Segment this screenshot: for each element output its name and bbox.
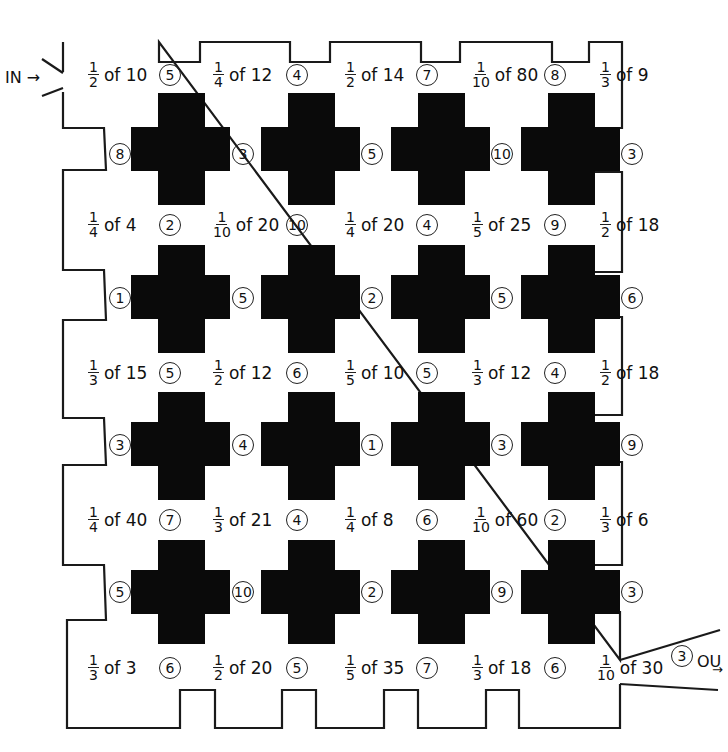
circled-number: 9	[621, 434, 643, 456]
cross-block	[261, 93, 360, 205]
fraction: 12	[213, 654, 224, 682]
fraction: 14	[213, 61, 224, 89]
fraction-label: 12of 20	[213, 648, 272, 688]
fraction-label: 15of 25	[472, 205, 531, 245]
circled-number: 2	[361, 287, 383, 309]
fraction-label: 110of 30	[597, 648, 663, 688]
fraction-label: 12of 10	[88, 55, 147, 95]
fraction-of-text: of 20	[236, 215, 279, 235]
cross-block	[521, 392, 620, 500]
fraction: 110	[472, 506, 490, 534]
fraction-of-text: of 10	[104, 65, 147, 85]
circled-number: 5	[232, 287, 254, 309]
fraction: 13	[88, 654, 99, 682]
fraction-of-text: of 9	[616, 65, 649, 85]
circled-number: 6	[286, 362, 308, 384]
fraction: 15	[345, 654, 356, 682]
fraction-of-text: of 10	[361, 363, 404, 383]
fraction: 12	[600, 211, 611, 239]
fraction-of-text: of 30	[620, 658, 663, 678]
cross-block	[261, 392, 360, 500]
fraction: 110	[472, 61, 490, 89]
cross-block	[131, 392, 230, 500]
circled-number: 5	[361, 143, 383, 165]
fraction-of-text: of 12	[229, 363, 272, 383]
circled-number: 3	[109, 434, 131, 456]
fraction-label: 110of 80	[472, 55, 538, 95]
cross-block	[131, 93, 230, 205]
circled-number: 2	[361, 581, 383, 603]
circled-number: 5	[159, 362, 181, 384]
fraction-of-text: of 40	[104, 510, 147, 530]
circled-number: 10	[286, 214, 308, 236]
fraction-label: 13of 21	[213, 500, 272, 540]
fraction-label: 12of 12	[213, 353, 272, 393]
fraction-label: 12of 14	[345, 55, 404, 95]
fraction-of-text: of 18	[616, 215, 659, 235]
fraction-label: 15of 35	[345, 648, 404, 688]
fraction: 14	[345, 506, 356, 534]
circled-number: 3	[621, 143, 643, 165]
fraction-of-text: of 3	[104, 658, 137, 678]
fraction-label: 14of 8	[345, 500, 394, 540]
cross-block	[261, 540, 360, 644]
circled-number: 5	[109, 581, 131, 603]
circled-number: 3	[232, 143, 254, 165]
circled-number: 4	[416, 214, 438, 236]
fraction: 12	[88, 61, 99, 89]
fraction-of-text: of 6	[616, 510, 649, 530]
circled-number: 3	[671, 645, 693, 667]
circled-number: 9	[491, 581, 513, 603]
fraction: 110	[213, 211, 231, 239]
fraction-of-text: of 60	[495, 510, 538, 530]
fraction-of-text: of 14	[361, 65, 404, 85]
fraction: 14	[345, 211, 356, 239]
fraction-label: 110of 20	[213, 205, 279, 245]
circled-number: 5	[416, 362, 438, 384]
fraction-of-text: of 15	[104, 363, 147, 383]
fraction-of-text: of 20	[361, 215, 404, 235]
fraction-label: 13of 9	[600, 55, 649, 95]
entry-flap-top	[42, 59, 63, 73]
fraction: 13	[213, 506, 224, 534]
circled-number: 3	[621, 581, 643, 603]
fraction-of-text: of 25	[488, 215, 531, 235]
fraction-label: 12of 18	[600, 353, 659, 393]
circled-number: 5	[491, 287, 513, 309]
fraction-of-text: of 4	[104, 215, 137, 235]
fraction: 13	[472, 654, 483, 682]
circled-number: 7	[416, 657, 438, 679]
circled-number: 7	[416, 64, 438, 86]
fraction-of-text: of 20	[229, 658, 272, 678]
circled-number: 4	[544, 362, 566, 384]
circled-number: 4	[232, 434, 254, 456]
fraction-label: 14of 20	[345, 205, 404, 245]
cross-block	[261, 245, 360, 353]
cross-block	[131, 245, 230, 353]
fraction: 13	[88, 359, 99, 387]
fraction: 13	[472, 359, 483, 387]
cross-block	[391, 93, 490, 205]
fraction-label: 13of 6	[600, 500, 649, 540]
fraction-label: 14of 12	[213, 55, 272, 95]
cross-block	[521, 93, 620, 205]
circled-number: 2	[544, 509, 566, 531]
fraction-of-text: of 21	[229, 510, 272, 530]
fraction-label: 15of 10	[345, 353, 404, 393]
fraction-label: 13of 12	[472, 353, 531, 393]
cross-block	[391, 392, 490, 500]
circled-number: 6	[159, 657, 181, 679]
fraction-of-text: of 35	[361, 658, 404, 678]
cross-block	[521, 245, 620, 353]
fraction-label: 14of 40	[88, 500, 147, 540]
fraction: 12	[345, 61, 356, 89]
circled-number: 1	[109, 287, 131, 309]
circled-number: 5	[286, 657, 308, 679]
fraction-of-text: of 18	[616, 363, 659, 383]
circled-number: 8	[109, 143, 131, 165]
circled-number: 5	[159, 64, 181, 86]
fraction-of-text: of 12	[229, 65, 272, 85]
fraction: 13	[600, 506, 611, 534]
fraction: 110	[597, 654, 615, 682]
fraction-of-text: of 8	[361, 510, 394, 530]
